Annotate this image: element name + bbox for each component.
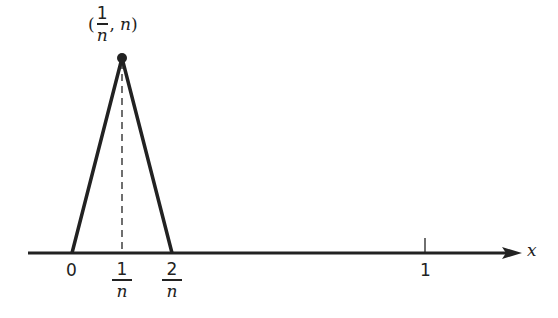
x-axis-label: x: [527, 240, 537, 260]
paren-open: (: [88, 14, 95, 34]
tick-label-1-over-n: 1 n: [112, 260, 132, 300]
fraction-denominator: n: [162, 282, 182, 300]
peak-point: [117, 53, 127, 63]
fraction-numerator: 1: [97, 4, 108, 22]
peak-y-value: n: [120, 14, 131, 34]
tick-label-2-over-n: 2 n: [162, 260, 182, 300]
tick-label-1: 1: [420, 260, 431, 280]
fraction-denominator: n: [97, 26, 108, 44]
paren-close: ): [131, 14, 138, 34]
diagram-canvas: [0, 0, 558, 318]
peak-x-fraction: 1 n: [97, 4, 108, 44]
tick-label-0: 0: [66, 260, 77, 280]
fraction-denominator: n: [112, 282, 132, 300]
fraction-numerator: 2: [162, 260, 182, 278]
fraction-numerator: 1: [112, 260, 132, 278]
peak-coordinate-label: ( 1 n , n ): [88, 4, 138, 44]
comma: ,: [110, 14, 115, 34]
